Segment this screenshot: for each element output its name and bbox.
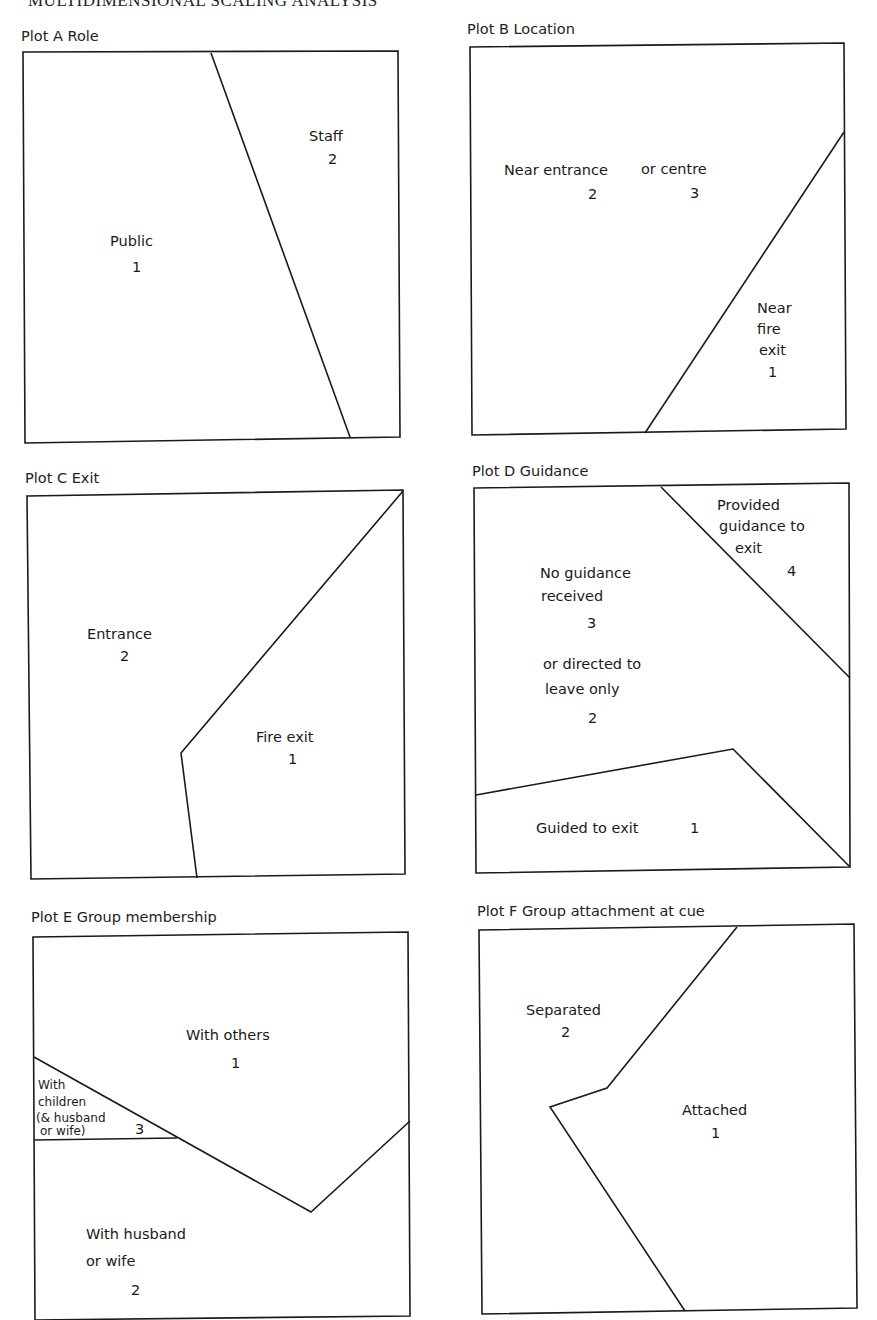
plot-d-region-noguidance-line2: received: [541, 588, 603, 604]
plot-e-region-children-line3: (& husband: [36, 1111, 106, 1125]
plot-e: Plot E Group membership With others 1 Wi…: [31, 909, 410, 1320]
plot-e-partition-line-children: [34, 1138, 177, 1140]
plot-b-region-centre-code: 3: [690, 185, 699, 201]
plot-d-partition-line-lower: [476, 749, 850, 867]
plot-c-frame: [27, 490, 405, 879]
plot-a-region-staff-code: 2: [328, 151, 337, 167]
plot-b-region-firexit-line2: fire: [757, 321, 781, 337]
plot-e-region-others-code: 1: [231, 1055, 240, 1071]
plot-b-partition-line: [645, 132, 844, 433]
plot-f-frame: [479, 924, 857, 1314]
plot-b-region-entrance-code: 2: [588, 186, 597, 202]
plot-f-partition-line: [550, 927, 737, 1311]
plot-d: Plot D Guidance Provided guidance to exi…: [472, 463, 850, 873]
plot-c-region-entrance-code: 2: [120, 648, 129, 664]
plot-e-partition-line-main: [34, 1057, 410, 1212]
plot-e-region-children-line2: children: [38, 1095, 86, 1109]
plot-c-region-entrance-label: Entrance: [87, 626, 152, 642]
plot-d-region-noguidance-code: 3: [587, 615, 596, 631]
plot-f-region-attached-label: Attached: [682, 1102, 747, 1118]
plot-e-region-spouse-line2: or wife: [86, 1253, 135, 1269]
plot-a-frame: [23, 51, 400, 443]
plot-f-region-separated-code: 2: [561, 1024, 570, 1040]
plot-e-region-spouse-code: 2: [131, 1282, 140, 1298]
plot-d-region-provided-line3: exit: [735, 540, 762, 556]
plot-b-region-firexit-line1: Near: [757, 300, 792, 316]
plot-b-region-firexit-code: 1: [768, 364, 777, 380]
plot-d-title: Plot D Guidance: [472, 463, 588, 479]
plot-c-region-fireexit-code: 1: [288, 751, 297, 767]
plot-d-region-directed-code: 2: [588, 710, 597, 726]
plot-e-region-others-label: With others: [186, 1027, 270, 1043]
plot-e-title: Plot E Group membership: [31, 909, 217, 925]
plot-c: Plot C Exit Entrance 2 Fire exit 1: [25, 470, 405, 879]
plot-b-title: Plot B Location: [467, 21, 575, 37]
plot-a-region-staff-label: Staff: [309, 128, 344, 144]
plot-c-partition-line: [181, 491, 403, 878]
plot-d-frame: [474, 483, 850, 873]
plot-b: Plot B Location Near entrance 2 or centr…: [467, 21, 846, 435]
plot-d-region-provided-line1: Provided: [717, 497, 780, 513]
plot-e-region-spouse-line1: With husband: [86, 1226, 186, 1242]
plot-a: Plot A Role Public 1 Staff 2: [21, 28, 400, 443]
plot-a-partition-line: [211, 53, 350, 437]
plot-f-region-separated-label: Separated: [526, 1002, 601, 1018]
plot-d-region-guided-label: Guided to exit: [536, 820, 639, 836]
plot-e-region-children-line1: With: [38, 1078, 65, 1092]
plot-f-region-attached-code: 1: [711, 1125, 720, 1141]
plot-a-title: Plot A Role: [21, 28, 99, 44]
plot-d-region-provided-line2: guidance to: [719, 518, 805, 534]
plot-e-region-children-code: 3: [135, 1121, 144, 1137]
plot-d-partition-line-upper: [661, 487, 850, 678]
plot-a-region-public-code: 1: [132, 259, 141, 275]
plot-b-region-centre-label: or centre: [641, 161, 707, 177]
plot-a-region-public-label: Public: [110, 233, 153, 249]
plot-b-frame: [470, 43, 846, 435]
plot-f-title: Plot F Group attachment at cue: [477, 903, 705, 919]
plot-e-region-children-line4: or wife): [40, 1124, 86, 1138]
plot-d-region-noguidance-line1: No guidance: [540, 565, 631, 581]
plot-b-region-entrance-label: Near entrance: [504, 162, 608, 178]
plot-c-region-fireexit-label: Fire exit: [256, 729, 314, 745]
plot-f: Plot F Group attachment at cue Separated…: [477, 903, 857, 1314]
plot-d-region-guided-code: 1: [690, 820, 699, 836]
plot-d-region-directed-line2: leave only: [545, 681, 620, 697]
plot-c-title: Plot C Exit: [25, 470, 99, 486]
plot-d-region-directed-line1: or directed to: [543, 656, 641, 672]
plot-d-region-provided-code: 4: [787, 563, 796, 579]
plot-b-region-firexit-line3: exit: [759, 342, 786, 358]
